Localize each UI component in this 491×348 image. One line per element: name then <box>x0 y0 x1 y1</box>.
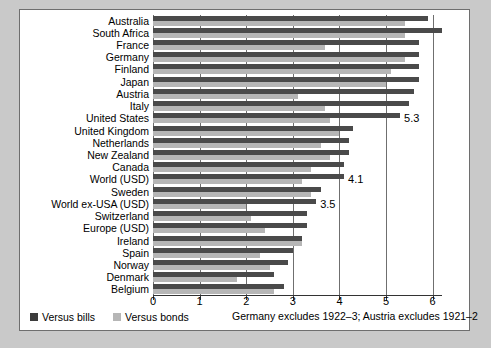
legend-label: Versus bonds <box>125 311 189 323</box>
page-background: AustraliaSouth AfricaFranceGermanyFinlan… <box>0 0 491 348</box>
chart-panel: AustraliaSouth AfricaFranceGermanyFinlan… <box>19 9 470 331</box>
data-label: 5.3 <box>404 112 419 124</box>
bar-versus-bonds <box>153 94 298 99</box>
bar-versus-bonds <box>153 106 325 111</box>
category-label: Denmark <box>106 271 149 283</box>
bar-row: Austria <box>153 89 442 101</box>
bar-row: Sweden <box>153 187 442 199</box>
bar-row: Spain <box>153 248 442 260</box>
bar-versus-bonds <box>153 155 330 160</box>
x-axis-tick-label: 1 <box>197 295 203 307</box>
data-label: 3.5 <box>320 198 335 210</box>
bar-row: World ex-USA (USD)3.5 <box>153 199 442 211</box>
bar-row: Denmark <box>153 272 442 284</box>
bar-versus-bonds <box>153 289 274 294</box>
bar-row: Japan <box>153 77 442 89</box>
bar-versus-bonds <box>153 57 405 62</box>
bar-row: United States5.3 <box>153 113 442 125</box>
bar-versus-bonds <box>153 33 405 38</box>
category-label: Europe (USD) <box>83 222 149 234</box>
category-label: Norway <box>113 259 149 271</box>
category-label: Australia <box>108 15 149 27</box>
bar-chart: AustraliaSouth AfricaFranceGermanyFinlan… <box>20 10 469 330</box>
bar-row: Switzerland <box>153 211 442 223</box>
x-axis-tick-label: 4 <box>336 295 342 307</box>
plot-area: AustraliaSouth AfricaFranceGermanyFinlan… <box>153 15 442 296</box>
category-label: Austria <box>116 88 149 100</box>
category-label: Switzerland <box>95 210 149 222</box>
category-label: Ireland <box>117 235 149 247</box>
bar-versus-bonds <box>153 118 330 123</box>
bar-versus-bonds <box>153 131 339 136</box>
bar-versus-bonds <box>153 45 325 50</box>
category-label: United States <box>86 112 149 124</box>
bar-row: Canada <box>153 162 442 174</box>
bar-versus-bonds <box>153 228 265 233</box>
bar-versus-bonds <box>153 179 302 184</box>
chart-legend: Versus billsVersus bonds <box>30 310 207 324</box>
category-label: Netherlands <box>92 137 149 149</box>
category-label: World ex-USA (USD) <box>51 198 149 210</box>
bar-versus-bonds <box>153 253 260 258</box>
legend-item: Versus bills <box>30 311 95 323</box>
x-axis-tick-label: 6 <box>430 295 436 307</box>
category-label: Sweden <box>111 186 149 198</box>
category-label: Italy <box>130 100 149 112</box>
bar-row: South Africa <box>153 28 442 40</box>
bar-row: Germany <box>153 52 442 64</box>
category-label: Belgium <box>111 283 149 295</box>
category-label: Spain <box>122 247 149 259</box>
legend-swatch-icon <box>30 313 38 321</box>
category-label: United Kingdom <box>74 125 149 137</box>
bar-versus-bonds <box>153 241 302 246</box>
bar-row: Netherlands <box>153 138 442 150</box>
legend-item: Versus bonds <box>113 311 189 323</box>
bar-row: Italy <box>153 101 442 113</box>
legend-label: Versus bills <box>42 311 95 323</box>
x-axis-tick-label: 5 <box>383 295 389 307</box>
bar-versus-bonds <box>153 192 311 197</box>
category-label: World (USD) <box>90 173 149 185</box>
bar-versus-bonds <box>153 277 237 282</box>
category-label: Finland <box>115 63 149 75</box>
category-label: Japan <box>120 76 149 88</box>
bar-row: Norway <box>153 260 442 272</box>
chart-footnote: Germany excludes 1922–3; Austria exclude… <box>232 310 478 322</box>
x-axis-tick-label: 0 <box>150 295 156 307</box>
bar-row: United Kingdom <box>153 126 442 138</box>
bar-versus-bonds <box>153 21 405 26</box>
legend-swatch-icon <box>113 313 121 321</box>
category-label: South Africa <box>92 27 149 39</box>
bar-row: Australia <box>153 16 442 28</box>
x-axis-tick-label: 3 <box>290 295 296 307</box>
bar-versus-bonds <box>153 167 311 172</box>
bar-versus-bonds <box>153 204 246 209</box>
bar-versus-bonds <box>153 216 251 221</box>
bar-row: Finland <box>153 64 442 76</box>
bar-versus-bonds <box>153 265 270 270</box>
bar-versus-bonds <box>153 82 386 87</box>
x-axis-tick-label: 2 <box>243 295 249 307</box>
bar-row: Europe (USD) <box>153 223 442 235</box>
category-label: France <box>116 39 149 51</box>
bar-row: Ireland <box>153 236 442 248</box>
category-label: New Zealand <box>87 149 149 161</box>
bar-versus-bonds <box>153 143 321 148</box>
bar-versus-bonds <box>153 69 391 74</box>
bar-row: New Zealand <box>153 150 442 162</box>
category-label: Germany <box>106 51 149 63</box>
category-label: Canada <box>112 161 149 173</box>
bar-row: World (USD)4.1 <box>153 174 442 186</box>
bar-row: France <box>153 40 442 52</box>
data-label: 4.1 <box>348 173 363 185</box>
